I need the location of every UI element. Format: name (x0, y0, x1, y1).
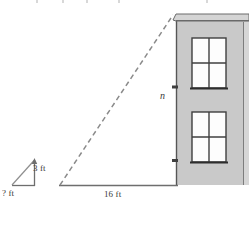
ground-distance-label: 16 ft (104, 190, 121, 199)
similar-triangles-diagram: 3 ft ? ft 16 ft n (0, 0, 249, 227)
small-triangle-hypotenuse (12, 160, 35, 185)
small-triangle-height-label: 3 ft (33, 164, 46, 173)
sight-line-dashed (60, 15, 173, 185)
dimension-tick-top (172, 86, 178, 89)
diagram-canvas (0, 0, 249, 227)
building-roof-cap (173, 14, 249, 21)
building-window-lower (190, 112, 228, 163)
scan-artifacts (0, 0, 249, 6)
dimension-tick-bottom (172, 159, 178, 162)
building-side-shading (244, 22, 249, 185)
building-height-variable-label: n (160, 91, 165, 101)
building-window-upper (190, 38, 228, 89)
small-triangle-base-label: ? ft (2, 189, 14, 198)
